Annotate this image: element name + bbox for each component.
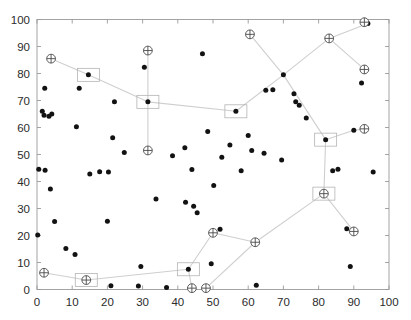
- y-tick-label: 10: [17, 257, 30, 269]
- data-point: [262, 151, 267, 156]
- circled-plus-marker[interactable]: [360, 18, 369, 27]
- data-point: [110, 135, 115, 140]
- data-point: [304, 116, 309, 121]
- plot-canvas: 0102030405060708090100 01020304050607080…: [0, 0, 411, 320]
- circled-plus-marker[interactable]: [143, 146, 152, 155]
- y-axis-tick-labels: 0102030405060708090100: [11, 14, 30, 296]
- data-point: [183, 200, 188, 205]
- data-point: [43, 168, 48, 173]
- scatter-plot-figure: 0102030405060708090100 01020304050607080…: [0, 0, 411, 320]
- data-point: [48, 187, 53, 192]
- circled-plus-marker[interactable]: [246, 30, 255, 39]
- data-point: [136, 283, 141, 288]
- circled-plus-marker[interactable]: [82, 276, 91, 285]
- network-edges: [44, 22, 368, 288]
- data-point: [87, 171, 92, 176]
- data-point: [108, 283, 113, 288]
- data-point: [170, 153, 175, 158]
- data-point: [227, 143, 232, 148]
- data-point: [348, 264, 353, 269]
- x-tick-label: 100: [379, 296, 398, 308]
- data-point: [323, 137, 328, 142]
- data-point: [218, 227, 223, 232]
- x-tick-label: 60: [242, 296, 255, 308]
- circled-plus-marker[interactable]: [325, 34, 334, 43]
- data-point: [142, 65, 147, 70]
- data-point: [189, 167, 194, 172]
- network-edge: [326, 130, 354, 139]
- data-point: [263, 88, 268, 93]
- data-point: [371, 170, 376, 175]
- network-edge: [148, 102, 236, 111]
- x-tick-label: 40: [171, 296, 184, 308]
- y-tick-label: 50: [17, 149, 30, 161]
- data-point: [200, 51, 205, 56]
- data-point: [153, 197, 158, 202]
- network-edge: [255, 194, 324, 243]
- data-point: [138, 264, 143, 269]
- data-point: [279, 157, 284, 162]
- network-edge: [206, 242, 255, 288]
- network-edge: [51, 59, 88, 75]
- data-point: [74, 124, 79, 129]
- axes: [37, 20, 389, 290]
- data-point: [330, 168, 335, 173]
- circled-plus-marker[interactable]: [251, 238, 260, 247]
- circled-plus-marker[interactable]: [209, 228, 218, 237]
- data-point: [106, 170, 111, 175]
- data-point: [344, 226, 349, 231]
- y-tick-label: 30: [17, 203, 30, 215]
- x-tick-label: 20: [101, 296, 114, 308]
- data-point: [205, 129, 210, 134]
- x-tick-label: 70: [277, 296, 290, 308]
- data-point: [249, 148, 254, 153]
- y-tick-label: 40: [17, 176, 30, 188]
- network-edge: [236, 75, 284, 111]
- data-point: [233, 109, 238, 114]
- data-point: [122, 150, 127, 155]
- data-point: [86, 72, 91, 77]
- data-point: [36, 167, 41, 172]
- network-edge: [250, 34, 283, 75]
- plot-frame: [37, 20, 389, 290]
- x-axis-tick-labels: 0102030405060708090100: [34, 296, 399, 308]
- data-point: [97, 169, 102, 174]
- data-point: [40, 109, 45, 114]
- data-point: [112, 99, 117, 104]
- data-point: [195, 210, 200, 215]
- circled-plus-marker[interactable]: [360, 65, 369, 74]
- y-tick-label: 0: [24, 284, 30, 296]
- x-tick-label: 30: [136, 296, 149, 308]
- x-tick-label: 0: [34, 296, 40, 308]
- data-point: [359, 80, 364, 85]
- x-tick-label: 80: [312, 296, 325, 308]
- circled-plus-marker[interactable]: [47, 54, 56, 63]
- data-point: [209, 261, 214, 266]
- circled-plus-marker[interactable]: [349, 227, 358, 236]
- circled-plus-marker[interactable]: [319, 189, 328, 198]
- data-point: [145, 99, 150, 104]
- circled-plus-marker[interactable]: [360, 124, 369, 133]
- circled-plus-marker[interactable]: [202, 284, 211, 293]
- data-point: [297, 103, 302, 108]
- data-point: [63, 246, 68, 251]
- data-point: [186, 267, 191, 272]
- data-point: [291, 91, 296, 96]
- data-point: [35, 232, 40, 237]
- data-point: [42, 86, 47, 91]
- circled-plus-marker[interactable]: [187, 284, 196, 293]
- circled-plus-marker[interactable]: [143, 46, 152, 55]
- data-point: [191, 204, 196, 209]
- data-point: [52, 219, 57, 224]
- data-point: [246, 133, 251, 138]
- network-edge: [329, 38, 364, 69]
- circled-plus-marker[interactable]: [40, 268, 49, 277]
- y-tick-label: 100: [11, 14, 30, 26]
- network-edge: [324, 140, 326, 194]
- network-edge: [86, 269, 188, 280]
- x-tick-label: 90: [347, 296, 360, 308]
- data-point: [164, 285, 169, 290]
- data-point: [270, 87, 275, 92]
- network-edge: [88, 75, 147, 102]
- y-tick-label: 70: [17, 95, 30, 107]
